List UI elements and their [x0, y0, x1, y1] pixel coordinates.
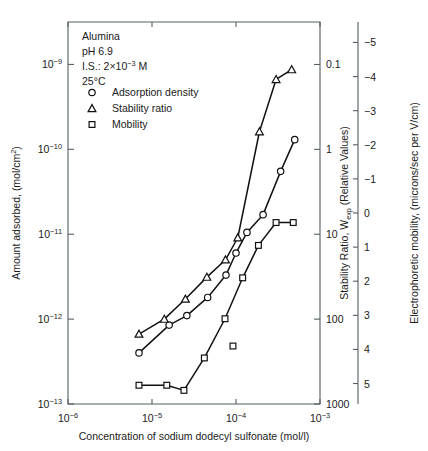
svg-text:10−4: 10−4 — [226, 411, 246, 424]
svg-text:I.S.: 2×10−3 M: I.S.: 2×10−3 M — [82, 59, 147, 72]
svg-text:2: 2 — [364, 275, 370, 287]
svg-text:5: 5 — [364, 378, 370, 390]
svg-text:10−13: 10−13 — [38, 397, 62, 410]
svg-text:Stability Ratio, Wexp (Relativ: Stability Ratio, Wexp (Relative Values) — [338, 126, 353, 300]
svg-text:10−6: 10−6 — [58, 411, 78, 424]
svg-text:10−9: 10−9 — [42, 57, 62, 70]
svg-text:1: 1 — [364, 241, 370, 253]
chart-canvas: 10−610−510−410−3 10−910−1010−1110−1210−1… — [0, 0, 428, 451]
svg-text:100: 100 — [326, 313, 344, 325]
svg-text:10−3: 10−3 — [310, 411, 330, 424]
svg-text:pH 6.9: pH 6.9 — [82, 45, 113, 57]
svg-text:0.1: 0.1 — [326, 58, 341, 70]
svg-text:0: 0 — [364, 207, 370, 219]
svg-text:1000: 1000 — [326, 398, 350, 410]
svg-text:1: 1 — [326, 143, 332, 155]
series-square-3 — [230, 343, 236, 349]
left-axis: 10−910−1010−1110−1210−13 — [38, 57, 74, 410]
svg-text:Electrophoretic mobility, (mic: Electrophoretic mobility, (microns/sec p… — [408, 102, 420, 324]
svg-text:3: 3 — [364, 309, 370, 321]
svg-text:4: 4 — [364, 343, 370, 355]
svg-text:Alumina: Alumina — [82, 30, 120, 42]
series-square-2 — [136, 220, 296, 394]
svg-text:Adsorption density: Adsorption density — [112, 86, 199, 98]
annotation-block: AluminapH 6.9I.S.: 2×10−3 M25°C — [82, 30, 147, 87]
svg-text:−3: −3 — [364, 105, 376, 117]
svg-text:Concentration of sodium dodecy: Concentration of sodium dodecyl sulfonat… — [79, 430, 310, 442]
svg-text:10−11: 10−11 — [38, 227, 62, 240]
right-mobility-axis: −5−4−3−2−1012345 — [353, 22, 376, 404]
series-circle-0 — [136, 136, 298, 356]
figure-container: 10−610−510−410−3 10−910−1010−1110−1210−1… — [0, 0, 428, 451]
svg-text:−2: −2 — [364, 139, 376, 151]
plot-frame — [68, 22, 320, 404]
legend-item-triangle: Stability ratio — [88, 102, 172, 114]
legend: Adsorption densityStability ratioMobilit… — [88, 86, 199, 130]
svg-text:Amount adsorbed, (mol/cm2): Amount adsorbed, (mol/cm2) — [9, 146, 22, 280]
data-series-group — [135, 66, 298, 394]
legend-item-circle: Adsorption density — [89, 86, 199, 98]
svg-text:−1: −1 — [364, 173, 376, 185]
svg-text:−5: −5 — [364, 36, 376, 48]
svg-text:Mobility: Mobility — [112, 118, 148, 130]
svg-text:25°C: 25°C — [82, 75, 106, 87]
svg-text:−4: −4 — [364, 71, 376, 83]
svg-text:10: 10 — [326, 228, 338, 240]
legend-item-square: Mobility — [89, 118, 148, 130]
svg-text:10−12: 10−12 — [38, 312, 62, 325]
svg-text:Stability ratio: Stability ratio — [112, 102, 172, 114]
svg-text:10−5: 10−5 — [142, 411, 162, 424]
svg-text:10−10: 10−10 — [38, 142, 62, 155]
